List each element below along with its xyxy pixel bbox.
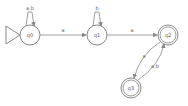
transition-label: a,b <box>26 5 34 11</box>
transition-label: b <box>95 5 98 11</box>
transition-label: a,b <box>151 63 159 69</box>
state-q0[interactable]: q0 <box>20 25 40 45</box>
start-arrow-icon <box>6 26 20 44</box>
svg-text:q2: q2 <box>165 32 171 39</box>
transition-label: a <box>142 53 145 59</box>
transition-q0-q0 <box>26 12 34 26</box>
transition-q1-q1 <box>93 12 101 26</box>
automaton-diagram: q0 a,b a q1 b a q2 a a,b q3 <box>0 0 188 106</box>
state-q1[interactable]: q1 <box>87 25 107 45</box>
state-q3[interactable]: q3 <box>121 78 141 98</box>
state-q2[interactable]: q2 <box>158 25 178 45</box>
transition-label: a <box>61 27 64 33</box>
svg-text:q1: q1 <box>94 32 100 39</box>
svg-text:q3: q3 <box>128 85 134 92</box>
transition-label: a <box>130 27 133 33</box>
diagram-canvas: q0 a,b a q1 b a q2 a a,b q3 <box>0 0 188 106</box>
svg-text:q0: q0 <box>27 32 33 39</box>
